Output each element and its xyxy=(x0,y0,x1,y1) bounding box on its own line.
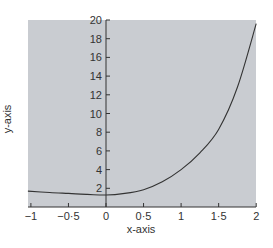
x-tick-label: 1 xyxy=(178,210,184,222)
y-tick-label: 4 xyxy=(96,164,102,176)
x-tick-label: 1·5 xyxy=(211,210,227,222)
x-tick-label: 2 xyxy=(253,210,259,222)
y-tick-label: 10 xyxy=(90,108,102,120)
y-tick-label: 16 xyxy=(90,51,102,63)
y-tick-label: 8 xyxy=(96,126,102,138)
y-axis-label: y-axis xyxy=(1,104,13,133)
y-tick-label: 14 xyxy=(90,70,102,82)
x-tick-label: −1 xyxy=(25,210,38,222)
plot-background xyxy=(28,20,256,207)
x-axis-label: x-axis xyxy=(127,223,156,235)
chart: −1−0·500·511·52 2468101214161820 x-axis … xyxy=(0,0,273,248)
y-tick-label: 6 xyxy=(96,145,102,157)
x-tick-label: −0·5 xyxy=(57,210,79,222)
y-tick-label: 18 xyxy=(90,33,102,45)
y-tick-label: 2 xyxy=(96,182,102,194)
y-tick-label: 12 xyxy=(90,89,102,101)
x-tick-label: 0 xyxy=(103,210,109,222)
y-tick-label: 20 xyxy=(90,14,102,26)
x-tick-label: 0·5 xyxy=(136,210,152,222)
